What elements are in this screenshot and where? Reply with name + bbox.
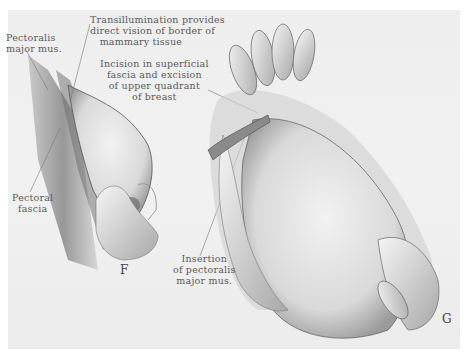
label-insertion: Insertion of pectoralis major mus.: [173, 253, 236, 286]
label-transillumination: Transillumination provides direct vision…: [90, 14, 225, 47]
panel-g-drawing: [208, 24, 439, 338]
illustration-plate: Transillumination provides direct vision…: [8, 10, 460, 349]
surgical-illustration: [8, 10, 460, 349]
panel-letter-g: G: [442, 312, 452, 326]
label-pectoral-fascia: Pectoral fascia: [12, 192, 53, 214]
label-pectoralis-major: Pectoralis major mus.: [6, 32, 62, 54]
label-incision: Incision in superficial fascia and excis…: [100, 58, 209, 102]
panel-letter-f: F: [120, 263, 128, 277]
